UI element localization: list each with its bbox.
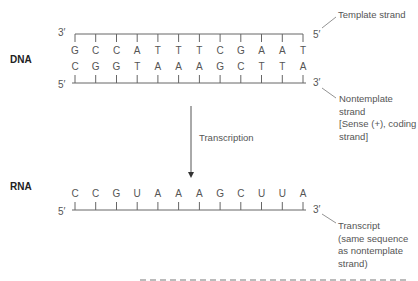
nontemplate-leader-line — [322, 88, 336, 98]
nontemplate-left-end: 5′ — [58, 79, 65, 90]
base: T — [297, 45, 309, 56]
nontemplate-right-end: 3′ — [313, 77, 320, 88]
base: U — [276, 188, 288, 199]
base: A — [276, 45, 288, 56]
base: C — [111, 45, 123, 56]
base: T — [152, 45, 164, 56]
base: G — [235, 45, 247, 56]
base: A — [152, 61, 164, 72]
base: C — [69, 61, 81, 72]
transcript-leader-line — [322, 214, 336, 223]
base: C — [214, 45, 226, 56]
rna-right-end: 3′ — [313, 204, 320, 215]
base: T — [131, 61, 143, 72]
rna-label: RNA — [10, 181, 32, 192]
callout-line: strand — [339, 106, 416, 119]
nontemplate-strand-backbone — [72, 75, 306, 83]
template-leader-line — [322, 17, 336, 28]
rna-strand-backbone — [72, 202, 306, 210]
base: G — [111, 61, 123, 72]
base: A — [131, 45, 143, 56]
base: G — [111, 188, 123, 199]
dna-label: DNA — [10, 54, 32, 65]
base: T — [276, 61, 288, 72]
base: G — [69, 45, 81, 56]
base: A — [193, 61, 205, 72]
base: T — [173, 45, 185, 56]
base: A — [297, 61, 309, 72]
base: A — [256, 45, 268, 56]
callout-line: as nontemplate — [338, 245, 408, 258]
base: U — [131, 188, 143, 199]
base: A — [152, 188, 164, 199]
base: C — [235, 188, 247, 199]
transcription-label: Transcription — [199, 132, 254, 145]
base: G — [90, 61, 102, 72]
base: A — [173, 61, 185, 72]
base: C — [90, 188, 102, 199]
transcript-callout: Transcript (same sequence as nontemplate… — [338, 220, 408, 270]
callout-line: (same sequence — [338, 233, 408, 246]
base: A — [193, 188, 205, 199]
template-strand-backbone — [75, 34, 303, 42]
base: C — [90, 45, 102, 56]
base: A — [297, 188, 309, 199]
callout-line: Nontemplate — [339, 93, 416, 106]
base: C — [235, 61, 247, 72]
base: C — [69, 188, 81, 199]
callout-line: [Sense (+), coding — [339, 118, 416, 131]
base: T — [256, 61, 268, 72]
base: A — [173, 188, 185, 199]
rna-left-end: 5′ — [58, 206, 65, 217]
callout-line: Transcript — [338, 220, 408, 233]
base: G — [214, 61, 226, 72]
base: U — [256, 188, 268, 199]
base: T — [193, 45, 205, 56]
template-left-end: 3′ — [58, 27, 65, 38]
template-strand-callout: Template strand — [338, 9, 406, 22]
nontemplate-strand-callout: Nontemplate strand [Sense (+), coding st… — [339, 93, 416, 143]
template-right-end: 5′ — [313, 29, 320, 40]
callout-line: strand] — [339, 131, 416, 144]
base: G — [214, 188, 226, 199]
callout-line: strand) — [338, 258, 408, 271]
cutoff-caption — [140, 276, 410, 281]
transcription-arrow-icon — [188, 106, 194, 178]
